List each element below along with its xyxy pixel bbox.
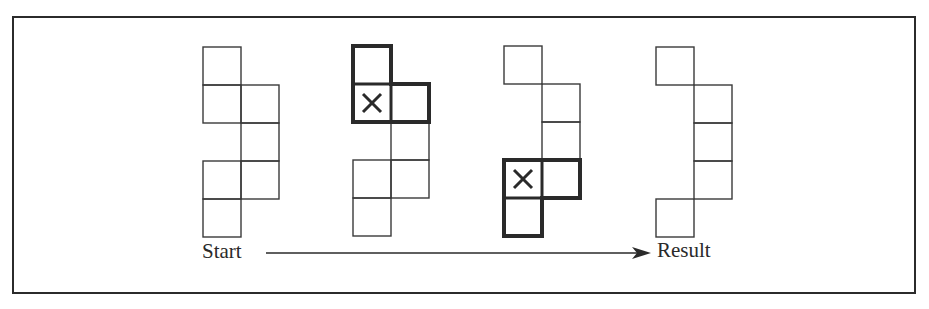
grid-cell — [542, 160, 580, 198]
arrow — [266, 247, 651, 259]
grid-cell — [542, 84, 580, 122]
start-label: Start — [202, 241, 242, 262]
grid-cell — [694, 161, 732, 199]
grid-cell — [203, 161, 241, 199]
result-label: Result — [657, 240, 711, 261]
grid-cell — [694, 85, 732, 123]
grid-cell — [353, 46, 391, 84]
grid-cell — [241, 161, 279, 199]
grid-cell — [353, 160, 391, 198]
grid-cell — [391, 160, 429, 198]
grid-cell — [241, 85, 279, 123]
grid-cell — [656, 47, 694, 85]
figure-step-1 — [353, 46, 429, 236]
figures-group — [203, 46, 732, 237]
grid-cell — [694, 123, 732, 161]
grid-cell — [391, 84, 429, 122]
grid-cell — [504, 46, 542, 84]
figure-step-2 — [504, 46, 580, 236]
figure-result — [656, 47, 732, 237]
figure-start — [203, 47, 279, 237]
grid-cell — [241, 123, 279, 161]
grid-cell — [504, 198, 542, 236]
grid-cell — [353, 198, 391, 236]
grid-cell — [203, 47, 241, 85]
grid-cell — [542, 122, 580, 160]
polyomino-diagram — [0, 0, 929, 309]
grid-cell — [203, 85, 241, 123]
grid-cell — [656, 199, 694, 237]
grid-cell — [391, 122, 429, 160]
grid-cell — [203, 199, 241, 237]
